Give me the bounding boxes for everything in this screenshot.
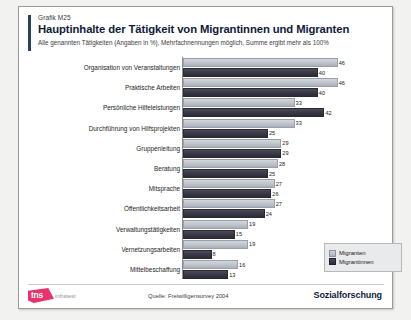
bar-group: 1915	[183, 220, 248, 239]
bar-value-label: 19	[249, 241, 255, 247]
bar-migranten: 19	[183, 240, 248, 249]
bar-value-label: 13	[229, 272, 235, 278]
bar-value-label: 19	[249, 221, 255, 227]
graphic-number: Grafik M25	[38, 14, 71, 21]
bar-value-label: 27	[276, 181, 282, 187]
category-label: Öffentlichkeitsarbeit	[124, 205, 180, 212]
bar-migrantinnen: 24	[183, 209, 265, 218]
bar-migrantinnen: 40	[183, 88, 318, 97]
bar-migranten: 16	[183, 260, 238, 269]
title-accent-bar	[28, 15, 31, 51]
tns-logo-text: tns	[31, 291, 43, 300]
category-label: Mitsprache	[149, 185, 180, 192]
bar-migranten: 27	[183, 199, 275, 208]
legend-swatch-migrantinnen-icon	[329, 258, 336, 265]
bar-value-label: 46	[339, 80, 345, 86]
bar-migrantinnen: 13	[183, 270, 228, 279]
bar-migrantinnen: 26	[183, 189, 271, 198]
chart-subtitle: Alle genannten Tätigkeiten (Angaben in %…	[38, 39, 329, 46]
category-label: Vernetzungsarbeiten	[121, 246, 180, 253]
bar-migrantinnen: 8	[183, 250, 212, 259]
legend-label-migranten: Migranten	[339, 250, 366, 256]
legend-label-migrantinnen: Migrantinnen	[339, 259, 374, 265]
bar-migranten: 29	[183, 139, 281, 148]
chart-header: Grafik M25 Hauptinhalte der Tätigkeit vo…	[28, 14, 384, 54]
bar-migranten: 33	[183, 98, 295, 107]
bar-group: 2929	[183, 139, 281, 158]
bar-migrantinnen: 25	[183, 169, 268, 178]
bar-value-label: 25	[269, 171, 275, 177]
bar-migrantinnen: 29	[183, 149, 281, 158]
bar-value-label: 29	[282, 150, 288, 156]
bar-value-label: 33	[296, 100, 302, 106]
bar-value-label: 27	[276, 201, 282, 207]
bar-value-label: 40	[319, 70, 325, 76]
footer-divider	[28, 284, 384, 285]
category-label: Praktische Arbeiten	[125, 84, 180, 91]
infratest-wordmark: infratest	[55, 293, 75, 299]
bar-value-label: 28	[279, 161, 285, 167]
bar-value-label: 8	[213, 251, 216, 257]
bar-migranten: 28	[183, 159, 278, 168]
bar-migranten: 33	[183, 119, 295, 128]
bar-value-label: 24	[266, 211, 272, 217]
bar-group: 4640	[183, 78, 338, 97]
division-name: Sozialforschung	[313, 290, 382, 300]
bar-migrantinnen: 25	[183, 129, 268, 138]
bar-value-label: 25	[269, 130, 275, 136]
bar-group: 2726	[183, 179, 275, 198]
chart-card: Grafik M25 Hauptinhalte der Tätigkeit vo…	[18, 6, 393, 309]
bar-migranten: 46	[183, 58, 338, 67]
category-label: Mittelbeschaffung	[130, 266, 180, 273]
bar-value-label: 26	[272, 191, 278, 197]
bar-value-label: 29	[282, 140, 288, 146]
screenshot-root: Grafik M25 Hauptinhalte der Tätigkeit vo…	[0, 0, 411, 320]
category-label: Gruppenleitung	[136, 145, 180, 152]
bar-group: 1613	[183, 260, 238, 279]
bar-value-label: 42	[325, 110, 331, 116]
bar-migrantinnen: 40	[183, 68, 318, 77]
bar-value-label: 40	[319, 90, 325, 96]
source-note: Quelle: Freiwilligensurvey 2004	[148, 293, 229, 299]
legend-item-migrantinnen: Migrantinnen	[329, 258, 398, 265]
category-label: Organisation von Veranstaltungen	[84, 64, 180, 71]
page-title: Hauptinhalte der Tätigkeit von Migrantin…	[38, 23, 349, 35]
bar-migranten: 19	[183, 220, 248, 229]
bar-migrantinnen: 42	[183, 108, 324, 117]
bar-value-label: 16	[239, 262, 245, 268]
bar-group: 2825	[183, 159, 278, 178]
tns-logo-icon: tns	[28, 288, 54, 303]
category-label: Persönliche Hilfeleistungen	[103, 104, 180, 111]
bar-group: 2724	[183, 199, 275, 218]
chart-plot-area: Organisation von Veranstaltungen4640Prak…	[28, 57, 384, 281]
bar-migrantinnen: 15	[183, 230, 235, 239]
chart-footer: tns infratest Quelle: Freiwilligensurvey…	[28, 287, 384, 307]
category-label: Beratung	[154, 165, 180, 172]
bar-value-label: 46	[339, 60, 345, 66]
bar-migranten: 46	[183, 78, 338, 87]
chart-legend: Migranten Migrantinnen	[324, 243, 402, 272]
category-label: Verwaltungstätigkeiten	[116, 226, 180, 233]
tns-infratest-logo: tns infratest	[28, 288, 75, 303]
category-label: Durchführung von Hilfsprojekten	[89, 125, 180, 132]
bar-migranten: 27	[183, 179, 275, 188]
bar-group: 3325	[183, 119, 295, 138]
bar-group: 4640	[183, 58, 338, 77]
bar-group: 198	[183, 240, 248, 259]
legend-swatch-migranten-icon	[329, 250, 336, 257]
bar-value-label: 15	[236, 231, 242, 237]
legend-item-migranten: Migranten	[329, 250, 398, 257]
bar-group: 3342	[183, 98, 324, 117]
bar-value-label: 33	[296, 120, 302, 126]
